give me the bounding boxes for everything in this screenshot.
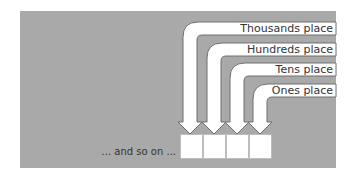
label-tens-place: Tens place: [276, 63, 333, 76]
label-hundreds-place: Hundreds place: [247, 43, 333, 56]
label-ones-place: Ones place: [272, 84, 333, 97]
label-thousands-place: Thousands place: [240, 22, 333, 35]
digit-box-thousands: [181, 135, 203, 159]
digit-box-ones: [250, 135, 272, 159]
digit-box-hundreds: [204, 135, 226, 159]
digit-box-tens: [227, 135, 249, 159]
continuation-text: ... and so on ...: [100, 146, 176, 157]
